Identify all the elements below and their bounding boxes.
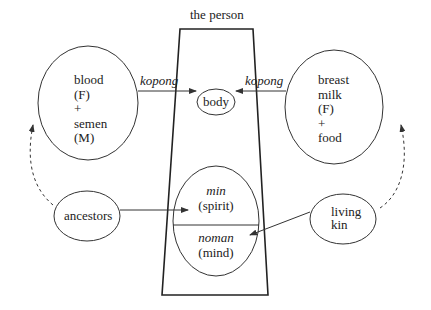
plus-line: + xyxy=(318,117,349,132)
body-label: body xyxy=(203,95,229,110)
mind-gloss: (mind) xyxy=(186,246,246,261)
spirit-term: min xyxy=(196,184,236,199)
milk-f-line: (F) xyxy=(318,102,349,117)
ancestors-label: ancestors xyxy=(64,209,112,224)
kin-line: kin xyxy=(331,218,361,233)
spirit-gloss: (spirit) xyxy=(186,199,246,214)
food-line: food xyxy=(318,131,349,146)
living-kin-label: living kin xyxy=(331,205,361,232)
breastmilk-food-label: breast milk (F) + food xyxy=(318,73,349,146)
diagram-canvas xyxy=(0,0,431,310)
breast-line: breast xyxy=(318,73,349,88)
blood-line: blood xyxy=(74,73,107,88)
right-kopong-label: kopong xyxy=(245,74,283,89)
semen-m-line: (M) xyxy=(74,131,107,146)
mind-term: noman xyxy=(186,231,246,246)
livingkin-to-breastmilk-dashed-arrow xyxy=(380,125,404,208)
ancestors-to-blood-dashed-arrow xyxy=(30,125,53,205)
left-kopong-label: kopong xyxy=(140,74,178,89)
person-title: the person xyxy=(190,8,244,23)
blood-semen-label: blood (F) + semen (M) xyxy=(74,73,107,146)
milk-line: milk xyxy=(318,88,349,103)
semen-line: semen xyxy=(74,117,107,132)
plus-line: + xyxy=(74,102,107,117)
blood-f-line: (F) xyxy=(74,88,107,103)
